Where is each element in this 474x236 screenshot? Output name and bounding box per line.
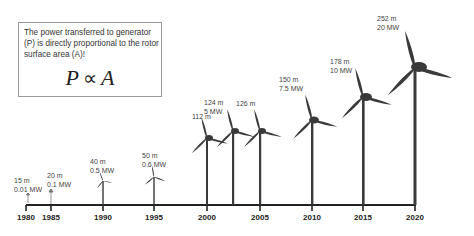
turbine-2003-icon bbox=[216, 109, 255, 205]
turbine-1995-icon bbox=[144, 165, 165, 205]
label-1985: 20 m0.1 MW bbox=[47, 171, 71, 189]
year-2015: 2015 bbox=[354, 213, 372, 222]
year-1995: 1995 bbox=[145, 213, 163, 222]
turbine-1985-icon bbox=[49, 189, 53, 204]
turbine-2000-icon bbox=[191, 117, 228, 205]
label-2005: 126 m bbox=[236, 99, 255, 108]
year-2000: 2000 bbox=[198, 213, 216, 222]
year-2005: 2005 bbox=[251, 213, 269, 222]
year-1985: 1985 bbox=[42, 213, 60, 222]
year-2010: 2010 bbox=[303, 213, 321, 222]
year-1980: 1980 bbox=[17, 213, 35, 222]
year-1990: 1990 bbox=[94, 213, 112, 222]
label-2020: 252 m20 MW bbox=[377, 14, 399, 32]
turbine-2010-icon bbox=[292, 94, 337, 205]
turbine-timeline bbox=[0, 0, 474, 236]
turbine-2020-icon bbox=[387, 30, 453, 205]
label-1995: 50 m0.6 MW bbox=[142, 151, 166, 169]
turbine-2005-icon bbox=[243, 109, 282, 205]
label-1990: 40 m0.5 MW bbox=[90, 157, 114, 175]
turbine-2015-icon bbox=[341, 68, 392, 205]
label-1980: 15 m0.01 MW bbox=[14, 176, 42, 194]
year-2020: 2020 bbox=[406, 213, 424, 222]
label-2015: 178 m10 MW bbox=[330, 57, 352, 75]
label-2010: 150 m7.5 MW bbox=[279, 75, 303, 93]
turbine-1980-icon bbox=[27, 193, 30, 203]
label-2003: 124 m5 MW bbox=[204, 98, 223, 116]
turbine-1990-icon bbox=[96, 172, 112, 205]
